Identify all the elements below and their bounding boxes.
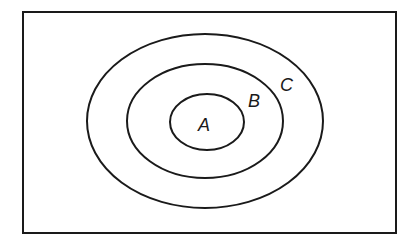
nested-sets-diagram: A B C [0,0,418,245]
set-c-label: C [280,75,294,95]
set-b-label: B [248,91,260,111]
set-a-label: A [197,115,210,135]
